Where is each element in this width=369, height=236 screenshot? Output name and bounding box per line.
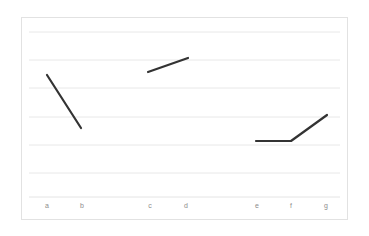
x-tick-label-c: c [140,201,160,211]
x-tick-label-a: a [37,201,57,211]
x-tick-label-d: d [176,201,196,211]
x-tick-label-b: b [72,201,92,211]
x-tick-label-e: e [247,201,267,211]
chart-figure: a b c d e f g [0,0,369,236]
x-tick-label-g: g [316,201,336,211]
x-tick-label-f: f [281,201,301,211]
chart-plot-area [21,17,348,220]
